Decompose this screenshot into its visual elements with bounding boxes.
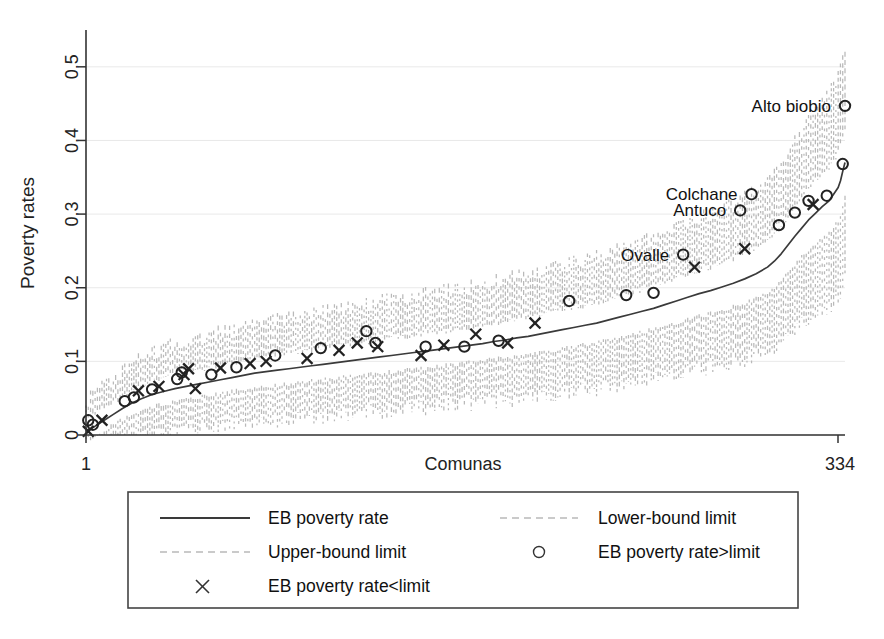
y-tick-label-0: 0 — [62, 430, 82, 440]
legend: EB poverty rate Lower-bound limit Upper-… — [128, 492, 798, 608]
legend-label-lower-bound-limit: Lower-bound limit — [598, 508, 736, 528]
y-axis-tick-labels: 00.10.20.30.40.5 — [62, 54, 82, 440]
annotation-antuco: Antuco — [673, 201, 726, 220]
x-tick-label-last: 334 — [825, 454, 855, 474]
marker-circle — [206, 369, 216, 379]
annotation-alto-biobio: Alto biobio — [752, 97, 831, 116]
y-tick-label-0.1: 0.1 — [62, 349, 82, 374]
eb-rate-above-limit-markers — [83, 101, 850, 430]
legend-label-above-limit: EB poverty rate>limit — [598, 542, 760, 562]
y-axis-title: Poverty rates — [17, 177, 38, 289]
annotation-ovalle: Ovalle — [621, 246, 669, 265]
y-tick-label-0.5: 0.5 — [62, 54, 82, 79]
marker-cross — [245, 358, 256, 369]
poverty-rates-figure: 00.10.20.30.40.5 Poverty rates 1 334 Com… — [0, 0, 884, 639]
marker-circle — [838, 159, 848, 169]
legend-label-upper-bound-limit: Upper-bound limit — [268, 542, 406, 562]
y-tick-label-0.2: 0.2 — [62, 275, 82, 300]
y-tick-label-0.3: 0.3 — [62, 202, 82, 227]
y-axis-ticks — [78, 67, 86, 435]
horizontal-gridlines — [86, 67, 845, 435]
x-tick-label-first: 1 — [81, 454, 91, 474]
marker-cross — [302, 353, 313, 364]
marker-cross — [739, 243, 750, 254]
marker-circle — [790, 207, 800, 217]
marker-cross — [352, 338, 363, 349]
marker-cross — [334, 345, 345, 356]
legend-label-below-limit: EB poverty rate<limit — [268, 576, 430, 596]
legend-swatch-cross-below-limit — [196, 580, 209, 593]
marker-cross — [372, 341, 383, 352]
bound-limits-band — [86, 52, 845, 440]
marker-cross — [470, 329, 481, 340]
marker-circle — [822, 190, 832, 200]
marker-cross — [530, 318, 541, 329]
legend-swatch-circle-above-limit — [534, 547, 545, 558]
y-tick-label-0.4: 0.4 — [62, 128, 82, 153]
legend-label-eb-poverty-rate: EB poverty rate — [268, 508, 389, 528]
marker-circle — [648, 288, 658, 298]
marker-cross — [689, 262, 700, 273]
marker-circle — [564, 296, 574, 306]
data-point-annotations: Alto biobioColchaneAntucoOvalle — [621, 97, 831, 265]
x-axis-title: Comunas — [424, 454, 501, 474]
